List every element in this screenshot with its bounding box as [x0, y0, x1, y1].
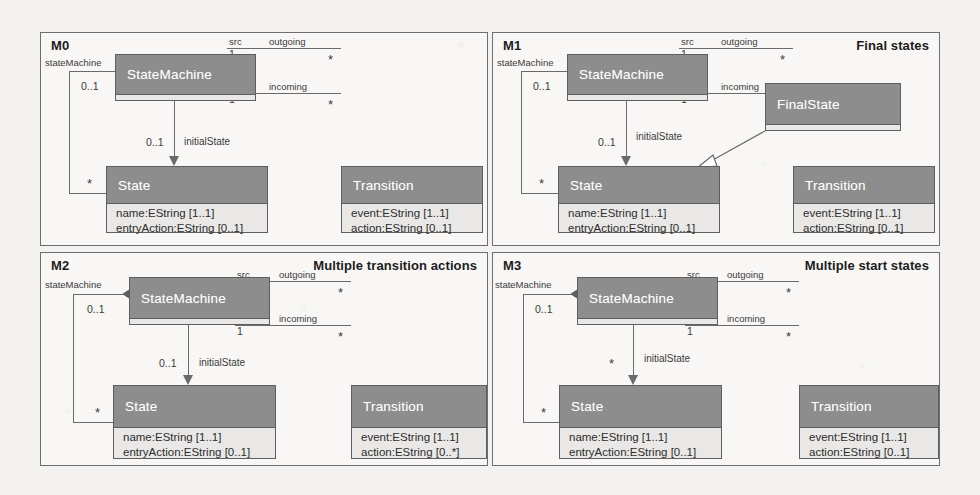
class-transition-m1-attrs: event:EString [1..1] action:EString [0..… — [794, 203, 934, 232]
panel-m2: M2 Multiple transition actions stateMach… — [40, 252, 488, 466]
m2-assoc-statemachine-mult: 0..1 — [87, 303, 105, 315]
m1-initialstate-line — [626, 101, 627, 163]
m1-assoc-statemachine-mult: 0..1 — [533, 80, 551, 92]
m2-outgoing-mult: * — [338, 290, 343, 296]
m3-assoc-line-bottom — [523, 422, 559, 423]
attr-transition-action: action:EString [0..1] — [351, 221, 482, 236]
m0-incoming-role: incoming — [269, 81, 307, 92]
panel-m0-id: M0 — [51, 38, 69, 53]
panel-m3-caption: Multiple start states — [805, 258, 929, 273]
m2-assoc-line-top — [73, 294, 123, 295]
attr-transition-action: action:EString [0..1] — [809, 445, 938, 460]
attr-transition-event: event:EString [1..1] — [351, 206, 482, 221]
m3-assoc-line-top — [523, 294, 571, 295]
m3-assoc-line-left — [523, 294, 524, 422]
class-state-m0[interactable]: State name:EString [1..1] entryAction:ES… — [106, 166, 268, 233]
m0-assoc-statemachine-mult: 0..1 — [81, 80, 99, 92]
class-transition-m1[interactable]: Transition event:EString [1..1] action:E… — [793, 166, 935, 233]
attr-state-entryaction: entryAction:EString [0..1] — [123, 445, 275, 460]
class-transition-m2-attrs: event:EString [1..1] action:EString [0..… — [352, 427, 486, 458]
m3-incoming-mult: * — [786, 334, 791, 340]
m1-initialstate-role: initialState — [636, 131, 682, 142]
class-statemachine-m1[interactable]: StateMachine — [567, 54, 708, 101]
class-transition-m3[interactable]: Transition event:EString [1..1] action:E… — [799, 385, 939, 459]
attr-state-entryaction: entryAction:EString [0..1] — [116, 221, 267, 236]
panel-m1-id: M1 — [503, 38, 521, 53]
diagram-canvas: M0 stateMachine 0..1 * 0..1 initialState… — [0, 0, 980, 495]
panel-m2-caption: Multiple transition actions — [313, 258, 477, 273]
attr-transition-event: event:EString [1..1] — [361, 430, 486, 445]
m2-outgoing-role: outgoing — [279, 269, 315, 280]
m1-assoc-line-left — [521, 71, 522, 193]
m3-initialstate-mult: * — [609, 361, 614, 367]
panel-m1-caption: Final states — [856, 38, 929, 53]
class-state-m1-attrs: name:EString [1..1] entryAction:EString … — [559, 203, 719, 232]
m0-outgoing-role: outgoing — [269, 36, 305, 47]
m2-assoc-states-mult: * — [95, 410, 100, 416]
m1-assoc-line-bottom — [521, 193, 558, 194]
m0-initialstate-line — [174, 101, 175, 163]
class-statemachine-m3-body — [578, 318, 717, 324]
class-transition-m3-name: Transition — [800, 386, 938, 427]
class-transition-m1-name: Transition — [794, 167, 934, 203]
m1-outgoing-mult: * — [780, 57, 785, 63]
panel-m3-id: M3 — [503, 258, 521, 273]
class-statemachine-m0-name: StateMachine — [116, 55, 255, 94]
class-statemachine-m1-body — [568, 94, 707, 100]
attr-state-name: name:EString [1..1] — [569, 430, 721, 445]
class-transition-m2[interactable]: Transition event:EString [1..1] action:E… — [351, 385, 487, 459]
m0-assoc-line-bottom — [69, 193, 106, 194]
m3-assoc-states-mult: * — [541, 410, 546, 416]
m3-assoc-statemachine-role: stateMachine — [495, 279, 552, 290]
class-state-m3-attrs: name:EString [1..1] entryAction:EString … — [560, 427, 721, 458]
m1-assoc-statemachine-role: stateMachine — [497, 57, 554, 68]
class-transition-m2-name: Transition — [352, 386, 486, 427]
m0-initialstate-mult: 0..1 — [146, 136, 164, 148]
attr-state-name: name:EString [1..1] — [568, 206, 719, 221]
class-state-m1[interactable]: State name:EString [1..1] entryAction:ES… — [558, 166, 720, 233]
class-statemachine-m0[interactable]: StateMachine — [115, 54, 256, 101]
m1-src-role: src — [681, 36, 694, 47]
class-statemachine-m0-body — [116, 94, 255, 100]
m2-assoc-line-bottom — [73, 422, 113, 423]
attr-transition-event: event:EString [1..1] — [809, 430, 938, 445]
m2-initialstate-mult: 0..1 — [159, 357, 177, 369]
m0-src-role: src — [229, 36, 242, 47]
class-finalstate-m1[interactable]: FinalState — [765, 83, 901, 131]
attr-state-entryaction: entryAction:EString [0..1] — [568, 221, 719, 236]
m0-initialstate-role: initialState — [184, 136, 230, 147]
m3-initialstate-role: initialState — [644, 353, 690, 364]
class-statemachine-m3-name: StateMachine — [578, 278, 717, 318]
m2-incoming-role: incoming — [279, 313, 317, 324]
m2-tgt-mult: 1 — [237, 325, 243, 337]
m2-incoming-line — [235, 325, 351, 326]
class-state-m1-name: State — [559, 167, 719, 203]
panel-m2-id: M2 — [51, 258, 69, 273]
class-state-m2-attrs: name:EString [1..1] entryAction:EString … — [114, 427, 275, 458]
class-statemachine-m2[interactable]: StateMachine — [129, 277, 270, 325]
m1-assoc-line-top — [521, 71, 567, 72]
attr-state-entryaction: entryAction:EString [0..1] — [569, 445, 721, 460]
class-state-m2-name: State — [114, 386, 275, 427]
attr-transition-event: event:EString [1..1] — [803, 206, 934, 221]
attr-state-name: name:EString [1..1] — [116, 206, 267, 221]
m2-initialstate-role: initialState — [199, 357, 245, 368]
m3-incoming-role: incoming — [727, 313, 765, 324]
class-statemachine-m2-name: StateMachine — [130, 278, 269, 318]
attr-state-name: name:EString [1..1] — [123, 430, 275, 445]
class-state-m2[interactable]: State name:EString [1..1] entryAction:ES… — [113, 385, 276, 459]
class-state-m3[interactable]: State name:EString [1..1] entryAction:ES… — [559, 385, 722, 459]
class-statemachine-m3[interactable]: StateMachine — [577, 277, 718, 325]
class-transition-m0[interactable]: Transition event:EString [1..1] action:E… — [341, 166, 483, 233]
panel-m3: M3 Multiple start states stateMachine 0.… — [492, 252, 940, 466]
panel-m1: M1 Final states stateMachine 0..1 * 0..1… — [492, 32, 940, 246]
attr-transition-action: action:EString [0..*] — [361, 445, 486, 460]
class-transition-m3-attrs: event:EString [1..1] action:EString [0..… — [800, 427, 938, 458]
class-transition-m0-attrs: event:EString [1..1] action:EString [0..… — [342, 203, 482, 232]
m0-incoming-mult: * — [328, 102, 333, 108]
m3-tgt-mult: 1 — [687, 325, 693, 337]
m1-assoc-states-mult: * — [539, 181, 544, 187]
m1-generalization-line — [711, 131, 765, 161]
class-transition-m0-name: Transition — [342, 167, 482, 203]
class-statemachine-m2-body — [130, 318, 269, 324]
